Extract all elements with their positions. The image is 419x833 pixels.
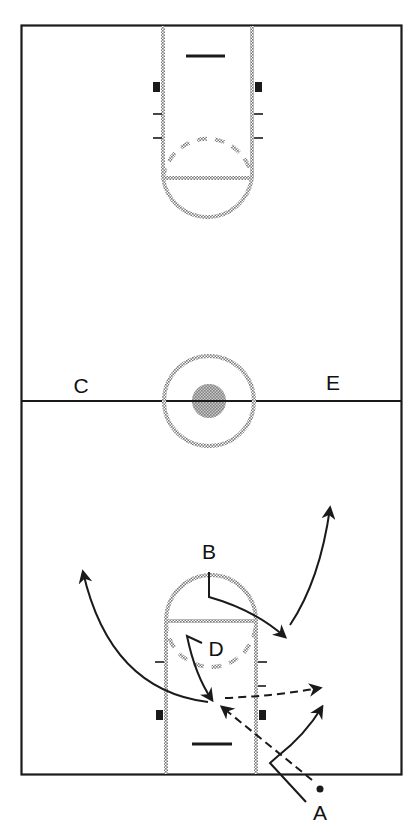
player-label-a: A	[313, 802, 327, 823]
top-block-right	[255, 82, 262, 92]
cut-arrow-b	[209, 572, 285, 637]
bottom-block-left	[156, 710, 163, 720]
basketball-court-diagram	[0, 0, 419, 833]
bottom-block-right	[259, 710, 266, 720]
pass-arrow-d	[225, 688, 320, 698]
player-label-d: D	[208, 638, 223, 659]
player-label-e: E	[326, 372, 340, 393]
pass-arrow-a	[222, 707, 312, 780]
player-label-b: B	[202, 541, 216, 562]
player-label-c: C	[73, 375, 88, 396]
top-key	[153, 26, 263, 217]
cut-arrow-right-wing	[290, 508, 330, 625]
bottom-key	[155, 575, 267, 774]
top-block-left	[153, 82, 160, 92]
ball-icon	[317, 786, 324, 793]
cut-arrow-a	[270, 707, 322, 802]
